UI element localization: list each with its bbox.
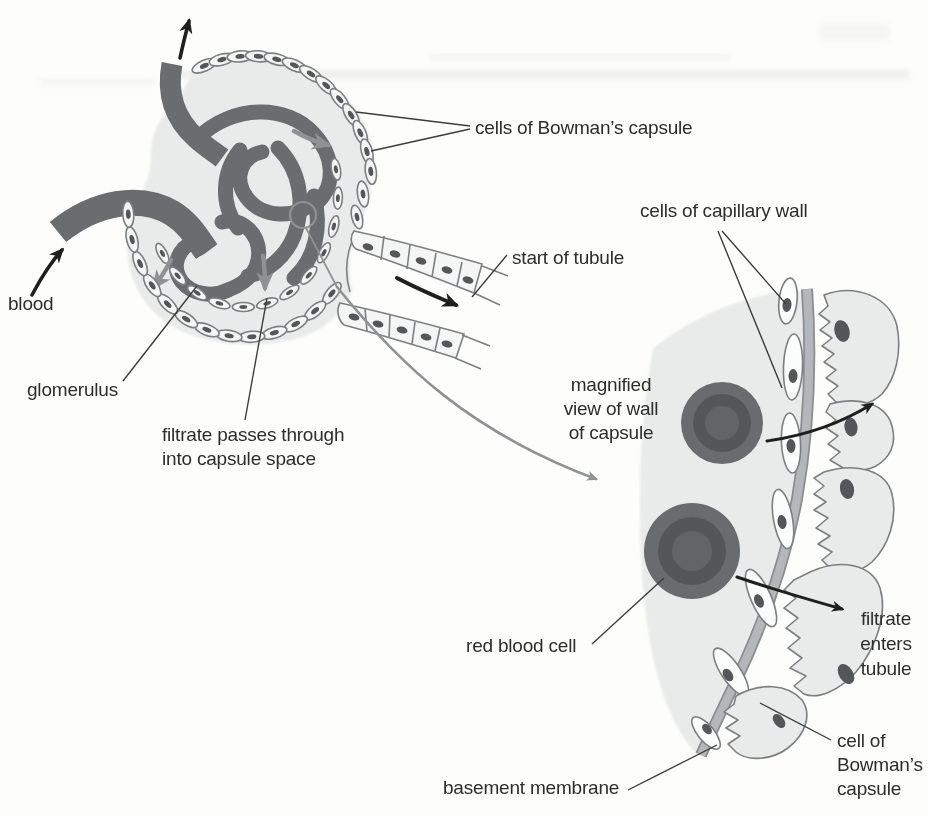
capsule-cell-nucleus — [239, 305, 247, 309]
label-basement-membrane: basement membrane — [443, 777, 619, 798]
label-filtrate-passes-line2: into capsule space — [162, 448, 316, 469]
label-magnified-line2: view of wall — [564, 398, 659, 419]
red-blood-cell-1 — [681, 382, 763, 464]
label-cell-of-bowmans-line1: cell of — [837, 730, 886, 751]
label-cells-of-capillary-wall: cells of capillary wall — [640, 200, 808, 221]
nephron-diagram: blood glomerulus cells of Bowman’s capsu… — [0, 0, 927, 815]
blood-out-arrow — [180, 21, 189, 58]
label-glomerulus: glomerulus — [27, 379, 118, 400]
leader-basement-membrane — [628, 745, 717, 790]
label-filtrate-passes-line1: filtrate passes through — [162, 424, 344, 445]
label-cell-of-bowmans-line2: Bowman’s — [837, 754, 923, 775]
leader-cells-of-bowmans — [356, 112, 470, 151]
label-magnified-line1: magnified — [571, 374, 652, 395]
label-filtrate-enters-line1: filtrate — [861, 608, 911, 629]
label-blood: blood — [8, 293, 54, 314]
label-filtrate-enters-line2: enters — [860, 633, 912, 654]
magnified-view — [640, 277, 899, 758]
diagram-page: blood glomerulus cells of Bowman’s capsu… — [0, 0, 927, 815]
label-cell-of-bowmans-line3: capsule — [837, 778, 901, 799]
blood-in-arrow — [32, 250, 62, 295]
label-magnified-line3: of capsule — [569, 422, 654, 443]
tubule — [338, 231, 508, 369]
red-blood-cell-2 — [644, 503, 740, 599]
label-start-of-tubule: start of tubule — [512, 247, 624, 268]
label-cells-of-bowmans-capsule: cells of Bowman’s capsule — [475, 117, 692, 138]
label-filtrate-enters-line3: tubule — [861, 658, 912, 679]
label-red-blood-cell: red blood cell — [466, 635, 576, 656]
